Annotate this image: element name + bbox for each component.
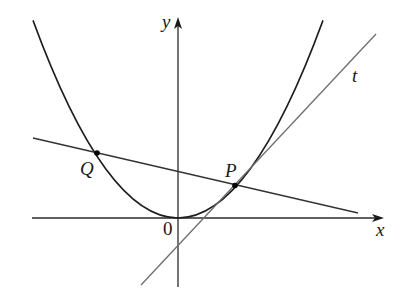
point-q-label: Q [80,158,94,179]
y-axis-label: y [160,11,171,32]
tangent-line-t [141,34,376,285]
point-q-dot [94,150,100,156]
tangent-label: t [352,65,358,86]
x-axis-label: x [375,219,385,240]
origin-label: 0 [163,218,173,239]
diagram-canvas: y x 0 P Q t [0,0,407,299]
y-axis [174,17,182,287]
point-p-label: P [224,160,237,181]
point-p-dot [232,183,238,189]
x-axis [32,214,384,222]
